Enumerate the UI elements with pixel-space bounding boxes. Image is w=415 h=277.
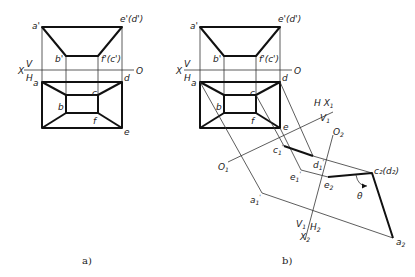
edge-ef: [98, 113, 122, 128]
label-e-b: e: [283, 122, 289, 132]
label-theta: θ: [357, 191, 363, 201]
label-a: a: [33, 78, 39, 88]
label-f-prime-b: f'(c'): [259, 54, 279, 64]
label-f-prime: f'(c'): [101, 54, 121, 64]
label-h-b: H: [184, 73, 191, 83]
edge-dc-b: [256, 82, 280, 95]
orthographic-drawing: a' e'(d') b' f'(c') X V H O a b c d e f …: [0, 0, 415, 277]
edge-e1-e2: [301, 170, 328, 177]
label-v-b: V: [184, 59, 191, 69]
label-x2: X2: [299, 232, 310, 243]
front-view-trapezoid: [42, 27, 122, 56]
caption-a: a): [82, 255, 92, 266]
label-c: c: [92, 88, 97, 98]
label-e-prime: e'(d'): [120, 14, 143, 24]
caption-b: b): [282, 255, 292, 266]
label-d-b: d: [282, 73, 288, 83]
label-f-b: f: [251, 116, 256, 126]
edge-c1-d1: [284, 146, 313, 156]
angle-arc: [356, 175, 367, 186]
label-e-prime-b: e'(d'): [278, 14, 301, 24]
label-h: H: [26, 73, 33, 83]
edge-lower-left: [42, 113, 66, 128]
label-o-b: O: [294, 66, 301, 76]
label-v: V: [26, 59, 33, 69]
label-a1: a1': [250, 193, 261, 206]
projector-d-d1: [280, 82, 313, 156]
label-d1: d1': [313, 158, 325, 171]
label-h-x1: H X1: [314, 98, 334, 109]
label-h2: H2: [310, 222, 321, 233]
label-e2: e2: [324, 180, 334, 191]
edge-dc: [98, 82, 122, 95]
edge-ab: [42, 82, 66, 95]
label-a-b: a: [191, 78, 197, 88]
projector-a1-a2: [262, 193, 393, 238]
label-c2-d2: c₂(d₂): [374, 166, 399, 176]
label-x: X: [17, 66, 25, 76]
label-b-b: b: [216, 102, 222, 112]
front-view-trapezoid-b: [200, 27, 280, 56]
label-c-b: c: [250, 88, 255, 98]
label-o: O: [136, 66, 143, 76]
label-x-b: X: [175, 66, 183, 76]
label-a-prime: a': [32, 21, 40, 31]
label-o2: O2: [333, 127, 344, 138]
angle-arrow-icon: [362, 184, 367, 189]
edge-ef-b: [256, 113, 280, 128]
figure-b: a' e'(d') b' f'(c') X V H O a b c d e f …: [175, 14, 406, 266]
label-e1: e1': [290, 170, 301, 183]
label-e: e: [124, 127, 130, 137]
label-v1: V1: [320, 113, 330, 124]
projector-a-a1: [200, 82, 262, 193]
aux-view-2-edges: [328, 173, 393, 238]
label-b-prime-b: b': [213, 54, 221, 64]
label-a-prime-b: a': [190, 21, 198, 31]
label-v1-x2: V1: [296, 219, 306, 230]
label-d: d: [124, 73, 130, 83]
edge-lower-left-b: [200, 113, 224, 128]
label-b-prime: b': [55, 54, 63, 64]
label-f: f: [93, 116, 98, 126]
label-b: b: [58, 102, 64, 112]
label-a2: a2: [396, 237, 406, 248]
figure-a: a' e'(d') b' f'(c') X V H O a b c d e f …: [17, 14, 143, 266]
label-c1: c1': [273, 143, 284, 156]
label-o1: O1: [218, 162, 229, 173]
